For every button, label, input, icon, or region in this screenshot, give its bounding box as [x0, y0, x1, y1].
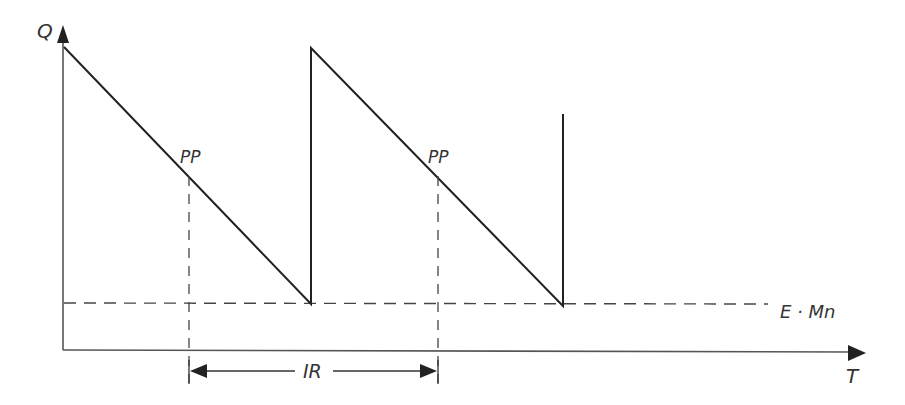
y-axis-arrow-icon: [57, 25, 69, 43]
safety-stock-line: [64, 303, 768, 304]
y-axis-label: Q: [37, 19, 53, 43]
x-axis: [63, 345, 866, 361]
arrow-right-icon: [420, 364, 437, 378]
reorder-point-2-label: PP: [428, 147, 449, 167]
inventory-level-line: [64, 47, 563, 306]
reorder-point-1-label: PP: [180, 147, 201, 167]
x-axis-arrow-icon: [848, 345, 866, 361]
x-axis-label: T: [846, 364, 860, 388]
safety-stock-label: E · Mn: [780, 301, 835, 322]
arrow-left-icon: [190, 364, 207, 378]
y-axis: [57, 25, 69, 350]
inventory-sawtooth-diagram: Q T E · Mn PP PP IR: [0, 0, 905, 405]
reorder-interval-label: IR: [303, 360, 322, 382]
